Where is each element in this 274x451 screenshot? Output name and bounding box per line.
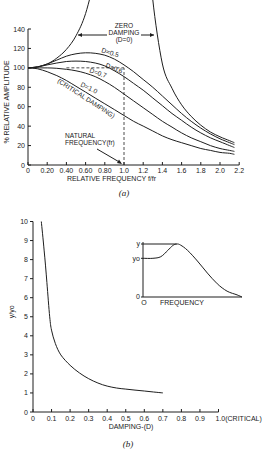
inset-chart: yyo0OFREQUENCY: [133, 240, 242, 307]
y-tick-label: 5: [24, 313, 28, 320]
y-tick-label: 1: [24, 389, 28, 396]
y-tick-label: 8: [24, 256, 28, 263]
annotation-damping: DAMPING: [109, 29, 140, 36]
x-tick-label: 1.0(CRITICAL): [216, 415, 262, 423]
inset-y-tick-label: y: [137, 240, 141, 248]
x-tick-label: 0.7: [158, 415, 168, 422]
inset-y-tick-label: 0: [136, 293, 140, 300]
x-tick-label: 0: [31, 415, 35, 422]
x-tick-label: 0.80: [98, 167, 112, 174]
caption-b: (b): [123, 439, 134, 449]
x-axis-title: DAMPING-(D): [109, 423, 154, 431]
y-tick-label: 7: [24, 275, 28, 282]
arrowhead-left-icon: [78, 33, 82, 37]
x-tick-label: 2.0: [215, 167, 225, 174]
natural-frequency-arrow: [97, 149, 121, 163]
y-tick-label: 40: [17, 123, 25, 130]
x-tick-label: 1.2: [138, 167, 148, 174]
y-tick-label: 80: [17, 84, 25, 91]
y-tick-label: 4: [24, 332, 28, 339]
arrowhead-right-icon: [150, 33, 154, 37]
x-tick-label: 1.8: [196, 167, 206, 174]
annotation-zero: ZERO: [115, 22, 133, 29]
x-tick-label: 0.2: [65, 415, 75, 422]
inset-response-curve: [143, 244, 242, 297]
x-tick-label: 1.0: [119, 167, 129, 174]
x-tick-label: 0.60: [79, 167, 93, 174]
label-natural: NATURAL: [65, 132, 96, 139]
label-d07: D=0.7: [89, 66, 108, 79]
x-tick-label: 0: [26, 167, 30, 174]
figure: 02040608010012014000.200.400.600.801.01.…: [0, 0, 274, 451]
y-tick-label: 140: [13, 26, 25, 33]
x-tick-label: 0.4: [102, 415, 112, 422]
curve-zero-damping-d-0-: [28, 0, 100, 68]
inset-axes: [143, 242, 242, 297]
y-tick-label: 3: [24, 351, 28, 358]
x-tick-label: 0.9: [195, 415, 205, 422]
x-axis-title: RELATIVE FREQUENCY f/fr: [67, 175, 157, 183]
curve-d-0-6: [28, 61, 234, 147]
arrowhead-icon: [117, 160, 122, 165]
y-tick-label: 100: [13, 64, 25, 71]
x-tick-label: 0.1: [47, 415, 57, 422]
caption-a: (a): [119, 188, 130, 198]
y-tick-label: 9: [24, 237, 28, 244]
chart-a-relative-amplitude: 02040608010012014000.200.400.600.801.01.…: [3, 0, 244, 198]
x-tick-label: 2.2: [234, 167, 244, 174]
x-tick-label: 0.6: [139, 415, 149, 422]
chart-b-damping-ratio: 01234567891000.10.20.30.40.50.60.70.80.9…: [8, 218, 262, 449]
y-tick-label: 60: [17, 103, 25, 110]
y-tick-label: 20: [17, 142, 25, 149]
inset-x-axis-title: FREQUENCY: [160, 299, 204, 307]
y-tick-label: 6: [24, 294, 28, 301]
y-axis-title: % RELATIVE AMPLITUDE: [3, 60, 10, 143]
inset-x-origin-label: O: [141, 299, 147, 306]
x-tick-label: 0.40: [60, 167, 74, 174]
x-tick-label: 1.4: [158, 167, 168, 174]
x-tick-label: 0.3: [84, 415, 94, 422]
x-tick-label: 0.8: [177, 415, 187, 422]
curve-y-over-yo: [41, 222, 163, 393]
x-tick-label: 1.6: [177, 167, 187, 174]
y-tick-label: 0: [21, 162, 25, 169]
y-tick-label: 10: [20, 218, 28, 225]
y-tick-label: 0: [24, 409, 28, 416]
y-axis-title: y/yo: [8, 305, 16, 318]
x-tick-label: 0.20: [40, 167, 54, 174]
y-tick-label: 120: [13, 45, 25, 52]
label-natural-frequency: FREQUENCY(fr): [65, 139, 115, 147]
chart-b-axes: [33, 222, 219, 413]
inset-y-tick-label: yo: [133, 255, 141, 263]
annotation-d0: (D=0): [116, 36, 133, 44]
y-tick-label: 2: [24, 370, 28, 377]
x-tick-label: 0.5: [121, 415, 131, 422]
